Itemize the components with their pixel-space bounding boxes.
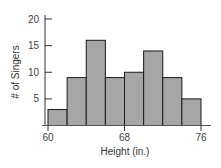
histogram-bars (48, 40, 201, 125)
histogram-bar (163, 78, 182, 126)
y-axis-label: # of Singers (10, 45, 21, 98)
y-ticks: 5101520 (28, 14, 52, 105)
y-tick-label: 5 (33, 93, 39, 104)
histogram-bar (86, 40, 105, 125)
histogram-bar (125, 72, 144, 125)
y-tick-label: 15 (28, 40, 40, 51)
histogram-bar (105, 78, 124, 126)
histogram-bar (67, 78, 86, 126)
x-tick-label: 68 (119, 132, 131, 143)
y-tick-label: 10 (28, 67, 40, 78)
x-tick-label: 60 (42, 132, 54, 143)
x-ticks: 606876 (42, 125, 207, 143)
histogram-chart: 5101520 606876 Height (in.) # of Singers (0, 0, 221, 168)
x-axis-label: Height (in.) (101, 146, 150, 157)
histogram-bar (182, 99, 201, 126)
histogram-bar (48, 110, 67, 126)
x-tick-label: 76 (195, 132, 207, 143)
histogram-bar (144, 51, 163, 126)
y-tick-label: 20 (28, 14, 40, 25)
